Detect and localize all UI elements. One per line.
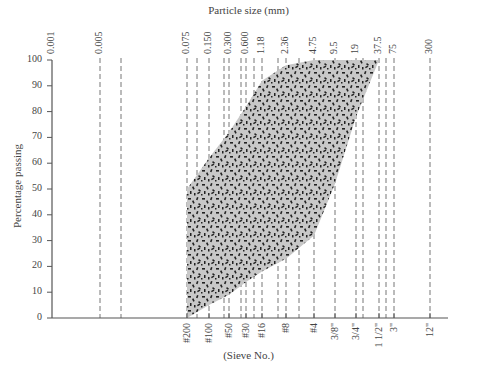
y-tick-label: 70	[14, 130, 42, 141]
top-tick-label: 9.5	[328, 42, 339, 55]
top-tick-label: 37.5	[372, 37, 383, 55]
gradation-band	[187, 60, 379, 318]
top-tick-label: 0.005	[93, 32, 104, 55]
y-tick-label: 80	[14, 105, 42, 116]
y-tick-label: 40	[14, 208, 42, 219]
y-tick-label: 90	[14, 79, 42, 90]
y-tick-label: 20	[14, 259, 42, 270]
top-tick-label: 0.600	[239, 32, 250, 55]
sieve-tick-label: #8	[280, 323, 291, 363]
sieve-tick-label: #4	[308, 323, 319, 363]
sieve-tick-label: 1 1/2"	[373, 323, 384, 363]
top-tick-label: 0.075	[180, 32, 191, 55]
y-tick-label: 30	[14, 234, 42, 245]
top-tick-label: 0.150	[202, 32, 213, 55]
top-tick-label: 4.75	[307, 37, 318, 55]
grain-size-distribution-chart: Particle size (mm) (Sieve No.) Percentag…	[0, 0, 497, 376]
y-tick-label: 10	[14, 285, 42, 296]
top-tick-label: 1.18	[255, 37, 266, 55]
top-tick-label: 2.36	[279, 37, 290, 55]
y-tick-label: 60	[14, 156, 42, 167]
y-tick-label: 100	[14, 53, 42, 64]
top-tick-label: 0.001	[45, 32, 56, 55]
sieve-tick-label: #16	[256, 323, 267, 363]
y-tick-label: 50	[14, 182, 42, 193]
top-tick-label: 300	[423, 39, 434, 54]
sieve-tick-label: 3/4"	[350, 323, 361, 363]
top-tick-label: 0.300	[222, 32, 233, 55]
sieve-tick-label: 3"	[388, 323, 399, 363]
sieve-tick-label: 3/8"	[329, 323, 340, 363]
y-tick-label: 0	[14, 311, 42, 322]
sieve-tick-label: #50	[223, 323, 234, 363]
sieve-tick-label: 12"	[424, 323, 435, 363]
plot-area	[0, 0, 497, 376]
sieve-tick-label: #100	[203, 323, 214, 363]
top-tick-label: 19	[349, 44, 360, 54]
top-tick-label: 75	[387, 44, 398, 54]
sieve-tick-label: #30	[240, 323, 251, 363]
sieve-tick-label: #200	[181, 323, 192, 363]
